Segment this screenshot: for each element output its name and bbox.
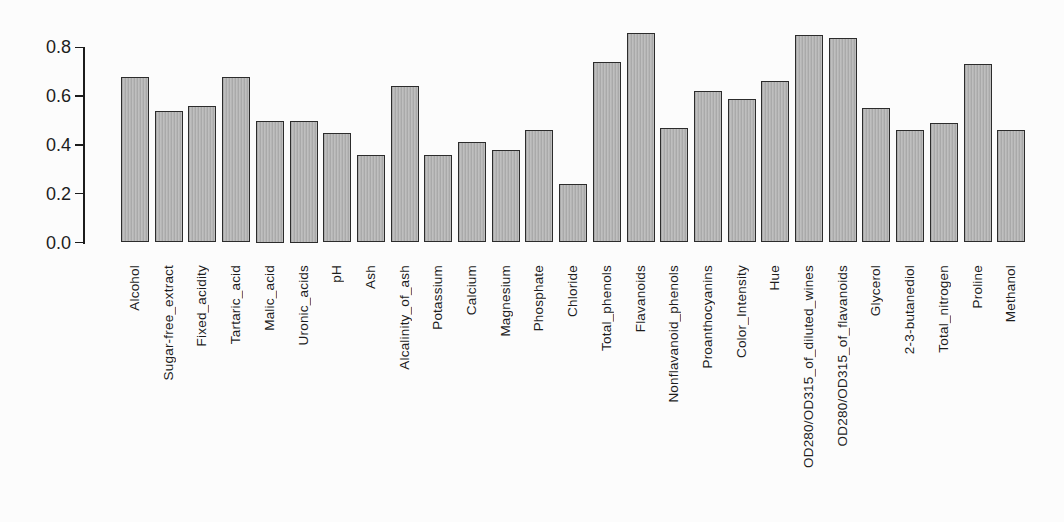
bar-Uronic_acids <box>290 121 318 243</box>
x-axis-label: Total_nitrogen <box>936 265 952 353</box>
x-axis-label: Proline <box>970 265 986 308</box>
x-axis-label: Alcalinity_of_ash <box>397 265 413 370</box>
bar-Total_phenols <box>593 62 621 243</box>
x-axis-label: Sugar-free_extract <box>161 265 177 380</box>
x-axis-label: OD280/OD315_of_diluted_wines <box>801 265 817 468</box>
x-axis-label: Ash <box>363 265 379 289</box>
x-axis-label: Magnesium <box>498 265 514 337</box>
x-axis-label: Potassium <box>430 265 446 330</box>
x-axis-label: Uronic_acids <box>296 265 312 345</box>
x-axis-label: Phosphate <box>531 265 547 331</box>
bar-Proline <box>964 64 992 242</box>
bar-Magnesium <box>492 150 520 243</box>
y-axis-tick-label: 0.2 <box>25 184 71 204</box>
y-axis-tick <box>75 144 83 146</box>
x-axis-label: Nonflavanoid_phenols <box>666 265 682 403</box>
bar-pH <box>323 133 351 243</box>
x-axis-label: Tartaric_acid <box>228 265 244 344</box>
bar-OD280/OD315_of_flavanoids <box>829 38 857 243</box>
bar-chart: 0.00.20.40.60.8 AlcoholSugar-free_extrac… <box>0 0 1064 522</box>
x-axis-label: Alcohol <box>127 265 143 311</box>
bar-Nonflavanoid_phenols <box>660 128 688 243</box>
x-axis-label: Methanol <box>1003 265 1019 322</box>
y-axis-tick-label: 0.6 <box>25 86 71 106</box>
bar-Flavanoids <box>627 33 655 243</box>
x-axis-label: Proanthocyanins <box>700 265 716 369</box>
y-axis-tick <box>75 47 83 49</box>
bar-Ash <box>357 155 385 243</box>
x-axis-label: Hue <box>767 265 783 290</box>
bar-Potassium <box>424 155 452 243</box>
bar-Chloride <box>559 184 587 243</box>
bar-Tartaric_acid <box>222 77 250 243</box>
y-axis-line <box>83 47 85 244</box>
x-axis-label: Total_phenols <box>599 265 615 351</box>
x-axis-label: OD280/OD315_of_flavanoids <box>835 265 851 446</box>
bar-Sugar-free_extract <box>155 111 183 243</box>
x-axis-label: Chloride <box>565 265 581 317</box>
x-axis-label: Fixed_acidity <box>194 265 210 346</box>
bar-Hue <box>761 81 789 242</box>
x-axis-label: pH <box>329 265 345 283</box>
y-axis-tick <box>75 95 83 97</box>
bar-Total_nitrogen <box>930 123 958 243</box>
bar-Calcium <box>458 142 486 242</box>
x-axis-label: Color_Intensity <box>734 265 750 358</box>
bar-Alcohol <box>121 77 149 243</box>
y-axis-tick-label: 0.4 <box>25 135 71 155</box>
x-axis-label: Glycerol <box>868 265 884 316</box>
bar-Proanthocyanins <box>694 91 722 242</box>
x-axis-label: 2-3-butanediol <box>902 265 918 354</box>
x-axis-label: Malic_acid <box>262 265 278 331</box>
bar-Color_Intensity <box>728 99 756 243</box>
y-axis-tick <box>75 193 83 195</box>
bar-Glycerol <box>862 108 890 242</box>
x-axis-label: Flavanoids <box>633 265 649 332</box>
bar-Methanol <box>997 130 1025 242</box>
y-axis-tick-label: 0.8 <box>25 37 71 57</box>
bar-Malic_acid <box>256 121 284 243</box>
bar-OD280/OD315_of_diluted_wines <box>795 35 823 242</box>
bar-Phosphate <box>525 130 553 242</box>
bar-Fixed_acidity <box>188 106 216 243</box>
x-axis-label: Calcium <box>464 265 480 315</box>
y-axis-tick <box>75 242 83 244</box>
bar-Alcalinity_of_ash <box>391 86 419 242</box>
y-axis-tick-label: 0.0 <box>25 233 71 253</box>
bar-2-3-butanediol <box>896 130 924 242</box>
